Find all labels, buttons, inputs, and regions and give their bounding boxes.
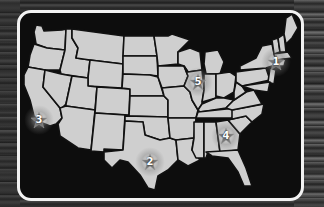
marker-number: 5 xyxy=(189,75,207,89)
state-wyoming[interactable] xyxy=(88,60,123,88)
state-new-mexico[interactable] xyxy=(91,113,125,152)
state-montana[interactable] xyxy=(72,29,124,64)
state-mississippi[interactable] xyxy=(192,122,204,158)
state-florida[interactable] xyxy=(206,150,252,186)
state-colorado[interactable] xyxy=(95,87,130,115)
state-north-dakota[interactable] xyxy=(123,36,157,56)
us-map xyxy=(0,0,324,207)
map-marker-2[interactable]: 2 xyxy=(141,153,159,171)
map-marker-5[interactable]: 5 xyxy=(189,73,207,91)
marker-number: 2 xyxy=(141,155,159,169)
map-marker-1[interactable]: 1 xyxy=(267,53,285,71)
marker-number: 4 xyxy=(217,129,235,143)
state-south-dakota[interactable] xyxy=(123,56,158,76)
marker-number: 1 xyxy=(267,55,285,69)
state-maine[interactable] xyxy=(284,14,298,44)
map-marker-4[interactable]: 4 xyxy=(217,127,235,145)
state-ohio[interactable] xyxy=(216,72,236,98)
map-marker-3[interactable]: 3 xyxy=(30,111,48,129)
state-kansas[interactable] xyxy=(129,96,168,117)
state-arizona[interactable] xyxy=(58,106,95,150)
state-arkansas[interactable] xyxy=(168,118,196,140)
marker-number: 3 xyxy=(30,113,48,127)
